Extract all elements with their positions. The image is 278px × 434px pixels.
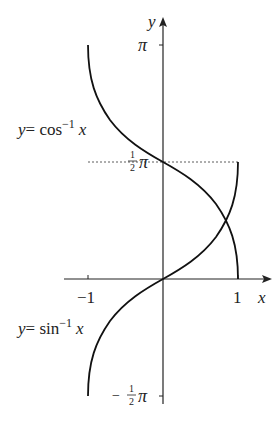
- svg-text:1: 1: [129, 383, 134, 394]
- tick-label-x-neg1: −1: [77, 288, 95, 307]
- y-axis-label: y: [146, 12, 156, 31]
- chart: y x π 1 2 π − 1 2 π −1 1 y= cos−1x y= si…: [0, 0, 278, 434]
- x-axis-label: x: [257, 288, 266, 307]
- svg-text:−: −: [112, 388, 120, 403]
- tick-label-half-pi: 1 2 π: [128, 149, 149, 173]
- svg-text:π: π: [138, 386, 148, 406]
- tick-label-neg-half-pi: − 1 2 π: [112, 383, 148, 407]
- svg-text:π: π: [139, 152, 149, 172]
- tick-label-pi: π: [138, 35, 148, 55]
- svg-text:2: 2: [130, 162, 135, 173]
- svg-text:2: 2: [129, 396, 134, 407]
- arcsin-label: y= sin−1x: [16, 316, 84, 338]
- svg-text:1: 1: [130, 149, 135, 160]
- tick-label-x-1: 1: [233, 288, 242, 307]
- arccos-label: y= cos−1x: [16, 117, 87, 139]
